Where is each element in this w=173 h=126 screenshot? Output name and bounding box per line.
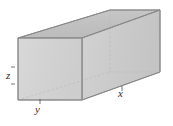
dimension-label-y: y [35, 104, 40, 115]
rectangular-box-diagram [0, 0, 173, 126]
dimension-label-x: x [118, 88, 123, 99]
figure-container: z y x [0, 0, 173, 126]
dimension-label-z: z [6, 70, 10, 81]
box-front-face [18, 38, 82, 100]
